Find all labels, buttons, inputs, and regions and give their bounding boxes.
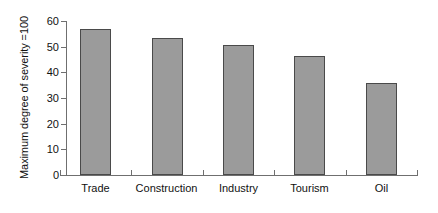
bar[interactable]	[294, 56, 325, 175]
y-axis-tick	[61, 72, 66, 73]
bar[interactable]	[366, 83, 397, 175]
y-axis-tick-label: 20	[15, 119, 59, 130]
y-axis-tick	[61, 21, 66, 22]
y-axis-tick	[61, 149, 66, 150]
y-axis-tick-label: 10	[15, 144, 59, 155]
x-axis-category-label: Construction	[131, 182, 202, 194]
x-axis-category-label: Industry	[203, 182, 274, 194]
y-axis-tick	[61, 175, 66, 176]
y-axis-tick	[61, 47, 66, 48]
x-axis-tick	[203, 170, 204, 176]
y-axis-tick-label: 0	[15, 170, 59, 181]
bar-chart-figure: Maximum degree of severity =100 0 10 20 …	[0, 0, 438, 213]
y-axis-tick	[61, 124, 66, 125]
y-axis-line	[66, 21, 67, 176]
bar[interactable]	[80, 29, 111, 175]
x-axis-tick	[131, 170, 132, 176]
y-axis-tick-label: 30	[15, 93, 59, 104]
x-axis-category-label: Tourism	[274, 182, 345, 194]
x-axis-tick	[60, 170, 61, 176]
x-axis-tick	[274, 170, 275, 176]
y-axis-tick	[61, 98, 66, 99]
x-axis-line	[60, 175, 417, 176]
bar[interactable]	[223, 45, 254, 175]
y-axis-tick-label: 50	[15, 42, 59, 53]
x-axis-category-label: Trade	[60, 182, 131, 194]
x-axis-category-label: Oil	[346, 182, 417, 194]
y-axis-tick-label: 60	[15, 16, 59, 27]
y-axis-tick-label: 40	[15, 67, 59, 78]
x-axis-tick	[346, 170, 347, 176]
x-axis-tick	[417, 170, 418, 176]
bar[interactable]	[152, 38, 183, 175]
plot-area: 0 10 20 30 40 50 60 Trade Construction I…	[0, 0, 438, 213]
